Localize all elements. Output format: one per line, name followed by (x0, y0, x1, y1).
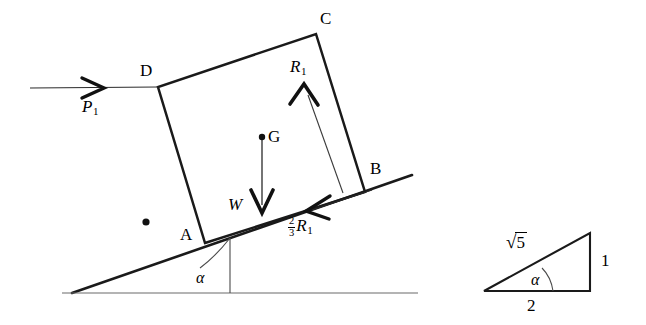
vertex-label-c: C (320, 10, 331, 27)
force-label-p1-base: P (82, 97, 92, 116)
radicand: 5 (515, 232, 527, 252)
reference-triangle-angle-arc (542, 268, 553, 291)
force-label-two-thirds-r1-subscript: 1 (307, 224, 313, 236)
force-r1-shaft (308, 95, 343, 193)
vertex-label-a: A (180, 226, 192, 243)
fraction-numerator: 2 (288, 216, 295, 227)
fraction-denominator: 3 (288, 227, 295, 239)
force-label-r1: R1 (290, 58, 306, 77)
reference-triangle-height-label: 1 (601, 252, 610, 269)
reference-triangle-base-label: 2 (527, 297, 536, 314)
force-label-p1: P1 (82, 98, 98, 117)
diagram-canvas (0, 0, 646, 325)
centroid-label-g: G (268, 128, 280, 145)
force-label-two-thirds-r1: 2 3 R1 (288, 216, 313, 238)
force-label-p1-subscript: 1 (93, 105, 99, 117)
force-r1-arrowhead (290, 84, 318, 105)
fraction-two-thirds: 2 3 (288, 216, 295, 238)
force-p1-shaft (30, 87, 158, 88)
centroid-dot-g (259, 134, 265, 140)
force-label-two-thirds-r1-base: R (296, 216, 306, 235)
reference-triangle-angle-label: α (531, 272, 539, 288)
vertex-label-d: D (140, 62, 152, 79)
vertex-label-b: B (370, 160, 381, 177)
physics-diagram-figure: A B C D G P1 W R1 2 3 R1 α √5 α 2 1 (0, 0, 646, 325)
reference-triangle-hypotenuse-label: √5 (506, 232, 527, 251)
force-label-w-base: W (228, 195, 242, 214)
force-label-r1-base: R (290, 57, 300, 76)
incline-angle-label: α (196, 270, 204, 286)
radical-symbol-group: √5 (506, 232, 527, 251)
force-label-r1-subscript: 1 (301, 65, 307, 77)
force-label-w: W (228, 196, 242, 213)
reference-dot (142, 218, 149, 225)
